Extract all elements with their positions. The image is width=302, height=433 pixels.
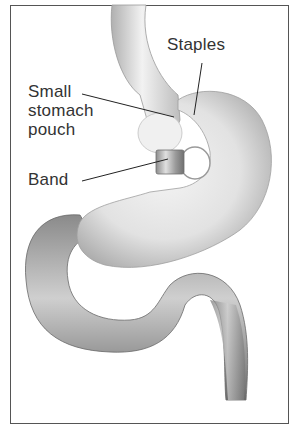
label-pouch-line-3: pouch xyxy=(28,120,94,139)
label-band: Band xyxy=(28,170,69,189)
label-pouch-line-2: stomach xyxy=(28,101,94,120)
band-leader-line xyxy=(82,159,168,181)
label-small-stomach-pouch: Small stomach pouch xyxy=(28,82,94,139)
stomach-window xyxy=(180,147,210,179)
band xyxy=(156,150,184,174)
label-pouch-line-1: Small xyxy=(28,82,94,101)
label-staples: Staples xyxy=(167,35,225,54)
anatomy-illustration xyxy=(0,0,302,433)
small-stomach-pouch xyxy=(138,113,182,153)
